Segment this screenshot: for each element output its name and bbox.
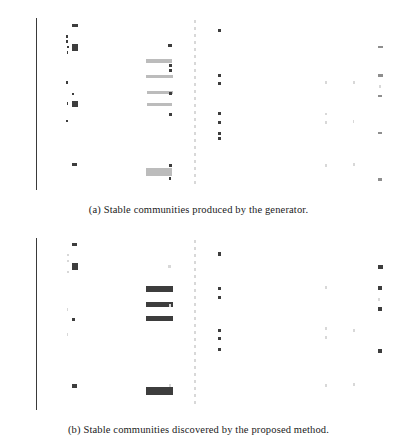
- dashed-vline-segment: [194, 240, 196, 243]
- data-mark: [146, 316, 172, 321]
- data-mark: [169, 164, 172, 167]
- data-mark: [378, 298, 380, 301]
- y-axis-line: [36, 18, 37, 190]
- subfigure-a: 010002000300040005000───────────────────…: [0, 0, 397, 224]
- data-mark: [218, 74, 222, 77]
- data-mark: [325, 164, 327, 167]
- dashed-vline-segment: [194, 118, 196, 121]
- dashed-vline-segment: [194, 104, 196, 107]
- dashed-vline-segment: [194, 261, 196, 264]
- data-mark: [378, 74, 382, 77]
- data-mark: [67, 51, 69, 54]
- data-mark: [72, 93, 75, 96]
- plot-area-a: [36, 18, 384, 190]
- dashed-vline-segment: [194, 254, 196, 257]
- dashed-vline-segment: [194, 345, 196, 348]
- dashed-vline-segment: [194, 352, 196, 355]
- data-mark: [218, 252, 222, 255]
- data-mark: [67, 308, 69, 311]
- data-mark: [218, 112, 222, 115]
- data-mark: [146, 59, 172, 62]
- data-mark: [72, 384, 77, 388]
- dashed-vline-segment: [194, 366, 196, 369]
- dashed-vline-segment: [194, 174, 196, 177]
- data-mark: [72, 101, 78, 107]
- dashed-vline-segment: [194, 146, 196, 149]
- data-mark: [353, 163, 355, 166]
- dashed-vline-segment: [194, 153, 196, 156]
- data-mark: [378, 349, 382, 352]
- dashed-vline-segment: [194, 132, 196, 135]
- dashed-vline-segment: [194, 331, 196, 334]
- data-mark: [353, 383, 355, 386]
- data-mark: [146, 75, 172, 78]
- dashed-vline-segment: [194, 27, 196, 30]
- data-mark: [72, 163, 78, 166]
- dashed-vline-segment: [194, 338, 196, 341]
- data-mark: [325, 121, 327, 124]
- data-mark: [353, 81, 355, 84]
- data-mark: [67, 260, 69, 263]
- data-mark: [146, 168, 172, 176]
- dashed-vline-segment: [194, 97, 196, 100]
- dashed-vline-segment: [194, 83, 196, 86]
- data-mark: [72, 24, 78, 27]
- dashed-vline-segment: [194, 317, 196, 320]
- data-mark: [378, 265, 383, 269]
- data-mark: [378, 307, 382, 311]
- data-mark: [218, 296, 222, 299]
- data-mark: [67, 333, 69, 336]
- dashed-vline-segment: [194, 275, 196, 278]
- dashed-vline-segment: [194, 296, 196, 299]
- dashed-vline-segment: [194, 380, 196, 383]
- data-mark: [218, 348, 222, 351]
- data-mark: [66, 40, 68, 43]
- data-mark: [218, 29, 222, 32]
- plot-area-b: [36, 238, 384, 410]
- data-mark: [72, 243, 78, 246]
- data-mark: [146, 286, 173, 292]
- dashed-vline-segment: [194, 139, 196, 142]
- dashed-vline-segment: [194, 90, 196, 93]
- dashed-vline-segment: [194, 62, 196, 65]
- dashed-vline-segment: [194, 268, 196, 271]
- data-mark: [72, 263, 78, 270]
- data-mark: [146, 387, 173, 396]
- dashed-vline-segment: [194, 310, 196, 313]
- data-mark: [169, 177, 172, 180]
- dashed-vline-segment: [194, 76, 196, 79]
- data-mark: [218, 337, 222, 340]
- figure-page: 010002000300040005000───────────────────…: [0, 0, 397, 448]
- dashed-vline-segment: [194, 282, 196, 285]
- data-mark: [218, 329, 222, 332]
- data-mark: [67, 271, 69, 274]
- data-mark: [325, 286, 327, 289]
- subfigure-a-caption: (a) Stable communities produced by the g…: [0, 204, 397, 215]
- dashed-vline-segment: [194, 160, 196, 163]
- data-mark: [378, 286, 382, 290]
- data-mark: [378, 178, 382, 181]
- plot-frame-b: 010002000300040005000───────────────────…: [36, 238, 384, 410]
- y-axis-line: [36, 238, 37, 410]
- data-mark: [325, 336, 327, 339]
- dashed-vline-segment: [194, 20, 196, 23]
- data-mark: [218, 137, 222, 140]
- data-mark: [325, 384, 327, 387]
- dashed-vline-segment: [194, 41, 196, 44]
- dashed-vline-segment: [194, 48, 196, 51]
- data-mark: [169, 69, 172, 72]
- data-mark: [378, 132, 382, 135]
- data-mark: [168, 44, 171, 47]
- subfigure-b: 010002000300040005000───────────────────…: [0, 224, 397, 448]
- data-mark: [67, 102, 69, 105]
- dashed-vline-segment: [194, 387, 196, 390]
- dashed-vline-segment: [194, 55, 196, 58]
- dashed-vline-segment: [194, 247, 196, 250]
- dashed-vline-segment: [194, 167, 196, 170]
- dashed-vline-segment: [194, 394, 196, 397]
- dashed-vline-segment: [194, 181, 196, 184]
- data-mark: [378, 95, 382, 98]
- dashed-vline-segment: [194, 324, 196, 327]
- data-mark: [66, 81, 68, 84]
- dashed-vline-segment: [194, 303, 196, 306]
